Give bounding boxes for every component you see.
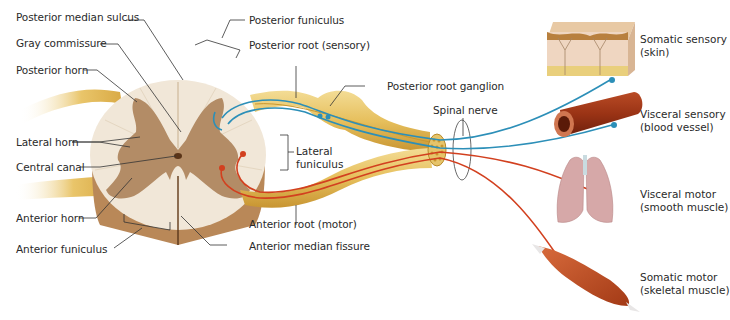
label-posterior-root: Posterior root (sensory) — [249, 39, 370, 51]
label-lateral-funiculus: Lateral funiculus — [296, 145, 343, 171]
label-anterior-median-fissure: Anterior median fissure — [249, 240, 370, 252]
label-posterior-root-ganglion: Posterior root ganglion — [387, 80, 504, 92]
label-visceral-motor-line2: (smooth muscle) — [640, 201, 728, 214]
label-somatic-motor: Somatic motor (skeletal muscle) — [640, 271, 730, 297]
label-somatic-sensory-line2: (skin) — [640, 46, 727, 59]
spinal-nerve-bundle — [428, 120, 471, 180]
label-posterior-horn: Posterior horn — [16, 64, 88, 76]
label-visceral-sensory-line1: Visceral sensory — [640, 108, 726, 121]
label-anterior-root: Anterior root (motor) — [249, 218, 357, 230]
label-visceral-motor-line1: Visceral motor — [640, 188, 728, 201]
label-spinal-nerve: Spinal nerve — [433, 104, 498, 116]
label-posterior-median-sulcus: Posterior median sulcus — [16, 11, 139, 23]
label-somatic-motor-line1: Somatic motor — [640, 271, 730, 284]
label-anterior-horn: Anterior horn — [16, 212, 84, 224]
label-lateral-funiculus-line2: funiculus — [296, 158, 343, 171]
skeletal-muscle-illustration — [532, 244, 640, 312]
label-somatic-sensory-line1: Somatic sensory — [640, 33, 727, 46]
label-somatic-sensory: Somatic sensory (skin) — [640, 33, 727, 59]
skin-illustration — [547, 22, 635, 76]
label-lateral-funiculus-line1: Lateral — [296, 145, 343, 158]
label-central-canal: Central canal — [16, 161, 84, 173]
label-visceral-sensory: Visceral sensory (blood vessel) — [640, 108, 726, 134]
label-visceral-motor: Visceral motor (smooth muscle) — [640, 188, 728, 214]
blood-vessel-illustration — [554, 92, 642, 137]
label-posterior-funiculus: Posterior funiculus — [249, 14, 344, 26]
label-anterior-funiculus: Anterior funiculus — [16, 243, 107, 255]
label-somatic-motor-line2: (skeletal muscle) — [640, 284, 730, 297]
label-gray-commissure: Gray commissure — [16, 37, 107, 49]
label-visceral-sensory-line2: (blood vessel) — [640, 121, 726, 134]
label-lateral-horn: Lateral horn — [16, 136, 79, 148]
